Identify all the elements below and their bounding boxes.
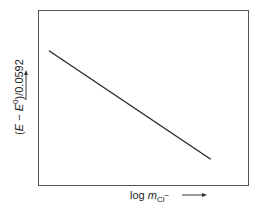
y-axis-label: (E − E0)/0.0592 (11, 17, 25, 177)
x-label-charge: − (164, 192, 169, 201)
plot-frame (39, 11, 249, 186)
y-label-suffix: )/0.0592 (13, 59, 25, 99)
y-label-minus: − (13, 111, 25, 124)
x-label-m: m (148, 189, 157, 201)
y-label-paren: ( (13, 131, 25, 135)
x-arrowhead-icon (202, 193, 207, 197)
chart-canvas (0, 0, 259, 212)
x-axis-label: log mCl− (130, 189, 169, 204)
y-label-sup: 0 (11, 100, 20, 104)
x-label-sub: Cl− (157, 195, 169, 204)
x-label-log: log (130, 189, 148, 201)
data-line (49, 51, 211, 160)
y-label-E0: E (13, 104, 25, 111)
y-label-E: E (13, 124, 25, 131)
